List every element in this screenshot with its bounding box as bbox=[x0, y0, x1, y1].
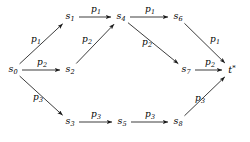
edge-label-base: p bbox=[145, 109, 151, 119]
edge-label-base: p bbox=[82, 34, 88, 44]
edge-label-subscript: 2 bbox=[88, 38, 92, 46]
edge-label-s0-to-s1: p1 bbox=[31, 35, 41, 45]
node-s8: s8 bbox=[173, 116, 182, 127]
node-s4: s4 bbox=[116, 11, 125, 22]
node-superscript: * bbox=[232, 64, 235, 72]
edge-label-base: p bbox=[31, 34, 37, 44]
node-s6: s6 bbox=[173, 11, 182, 22]
edge-label-base: p bbox=[210, 34, 216, 44]
node-s7: s7 bbox=[181, 64, 190, 75]
edge-label-subscript: 3 bbox=[151, 113, 155, 121]
edge-s4-to-s7 bbox=[128, 23, 178, 64]
edge-label-s2-to-s4: p2 bbox=[82, 35, 92, 45]
edge-label-s1-to-s4: p1 bbox=[91, 5, 101, 15]
edge-label-base: p bbox=[145, 4, 151, 14]
node-s1: s1 bbox=[65, 11, 74, 22]
edge-label-s4-to-s7: p2 bbox=[142, 38, 152, 48]
node-subscript: 5 bbox=[122, 120, 126, 128]
edge-label-subscript: 3 bbox=[201, 97, 205, 105]
edge-label-s4-to-s6: p1 bbox=[145, 5, 155, 15]
edge-label-base: p bbox=[33, 92, 39, 102]
edge-label-base: p bbox=[142, 37, 148, 47]
node-subscript: 4 bbox=[121, 15, 125, 23]
edge-label-base: p bbox=[195, 93, 201, 103]
edge-label-s0-to-s2: p2 bbox=[37, 58, 47, 68]
edge-label-subscript: 3 bbox=[39, 96, 43, 104]
node-subscript: 3 bbox=[70, 120, 74, 128]
edge-label-subscript: 1 bbox=[37, 38, 41, 46]
edge-label-subscript: 2 bbox=[211, 61, 215, 69]
edge-label-subscript: 1 bbox=[151, 8, 155, 16]
edge-label-s5-to-s8: p3 bbox=[145, 110, 155, 120]
edge-label-subscript: 2 bbox=[43, 61, 47, 69]
edge-label-s8-to-t: p3 bbox=[195, 94, 205, 104]
edge-label-s0-to-s3: p3 bbox=[33, 93, 43, 103]
edge-label-s3-to-s5: p3 bbox=[91, 110, 101, 120]
state-transition-diagram: s0s1s2s3s4s5s6s7s8t* p1p2p3p1p2p3p1p2p3p… bbox=[0, 0, 250, 142]
node-s5: s5 bbox=[117, 116, 126, 127]
node-subscript: 1 bbox=[70, 15, 74, 23]
node-s3: s3 bbox=[65, 116, 74, 127]
node-s2: s2 bbox=[65, 64, 74, 75]
edge-label-base: p bbox=[91, 4, 97, 14]
node-subscript: 7 bbox=[186, 68, 190, 76]
edge-label-base: p bbox=[91, 109, 97, 119]
node-subscript: 0 bbox=[13, 68, 17, 76]
node-subscript: 8 bbox=[178, 120, 182, 128]
node-s0: s0 bbox=[8, 64, 17, 75]
edge-label-subscript: 2 bbox=[148, 41, 152, 49]
edge-label-base: p bbox=[37, 57, 43, 67]
edge-label-base: p bbox=[205, 57, 211, 67]
edge-label-s7-to-t: p2 bbox=[205, 58, 215, 68]
node-t: t* bbox=[228, 65, 236, 75]
node-subscript: 6 bbox=[178, 15, 182, 23]
edge-label-subscript: 1 bbox=[216, 38, 220, 46]
node-subscript: 2 bbox=[70, 68, 74, 76]
edge-label-subscript: 3 bbox=[97, 113, 101, 121]
edge-label-subscript: 1 bbox=[97, 8, 101, 16]
edge-label-s6-to-t: p1 bbox=[210, 35, 220, 45]
